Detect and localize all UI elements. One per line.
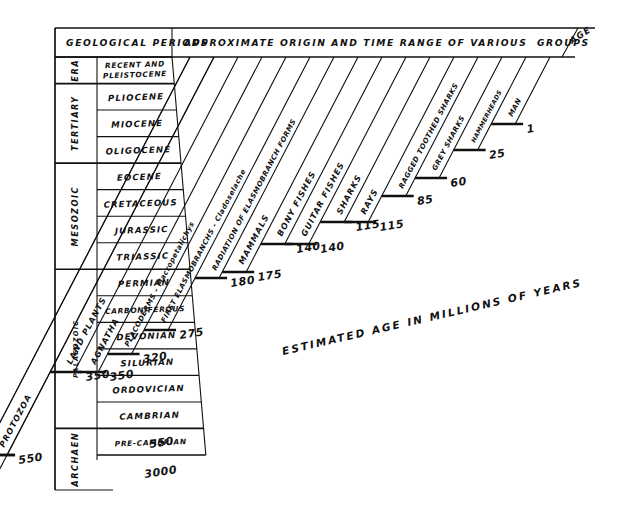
group-column-edge [74, 57, 238, 372]
group-column-edge [309, 57, 406, 244]
chart-canvas: GEOLOGICAL PERIODSAPPROXIMATE ORIGIN AND… [0, 0, 618, 514]
period-label: PLEISTOCENE [103, 69, 167, 80]
age-number: 115 [355, 217, 381, 234]
era-label: MESOZOIC [70, 186, 80, 247]
geological-time-chart: GEOLOGICAL PERIODSAPPROXIMATE ORIGIN AND… [0, 0, 618, 514]
age-number: 350 [109, 367, 135, 384]
chart-caption: ESTIMATED AGE IN MILLIONS OF YEARS [281, 276, 584, 357]
period-label: CAMBRIAN [119, 410, 180, 422]
age-number: 550 [17, 450, 43, 467]
age-number: 1 [526, 122, 536, 136]
header-origin-range: APPROXIMATE ORIGIN AND TIME RANGE OF VAR… [183, 37, 590, 48]
group-label: PROTOZOA [0, 392, 34, 449]
age-number: 140 [319, 239, 345, 256]
group-column-edge [168, 57, 310, 330]
group-column-edge [406, 57, 478, 196]
era-label: ARCHAEN [70, 432, 80, 488]
group-column-edge [98, 57, 262, 372]
age-number-precambrian: 3000 [143, 463, 178, 481]
group-label: HAMMERHEADS [469, 88, 503, 143]
age-number: 115 [379, 217, 405, 234]
age-number: 275 [178, 325, 204, 342]
age-number: 175 [257, 267, 283, 284]
period-label: PLIOCENE [108, 91, 165, 103]
group-label: RADIATION OF ELASMOBRANCH FORMS [211, 118, 298, 272]
protozoa-right-edge [0, 57, 214, 490]
age-number: 60 [450, 175, 468, 190]
age-number: 85 [416, 193, 434, 208]
group-label: RAYS [358, 187, 380, 216]
age-number: 25 [488, 147, 506, 162]
era-label: TERTIARY [70, 96, 80, 152]
period-label: TRIASSIC [116, 251, 169, 263]
period-label: OLIGOCENE [105, 144, 171, 156]
period-label: JURASSIC [113, 224, 169, 236]
period-label: ORDOVICIAN [112, 383, 185, 396]
age-number: 350 [85, 367, 111, 384]
period-label: EOCENE [117, 171, 162, 183]
age-number: 180 [230, 273, 256, 290]
group-column-edge [285, 57, 382, 244]
era-label: ERA [70, 59, 80, 82]
age-number: 550 [148, 434, 174, 451]
group-label: FIRST ELASMOBRANCHS - Cladoselache [160, 168, 248, 324]
age-number: 140 [295, 239, 321, 256]
group-label: MAN [507, 97, 523, 118]
